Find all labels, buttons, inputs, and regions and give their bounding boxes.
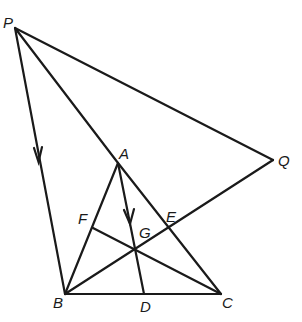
segment-AC <box>118 163 221 294</box>
label-A: A <box>118 145 129 162</box>
label-E: E <box>166 208 177 225</box>
label-F: F <box>78 210 88 227</box>
label-D: D <box>140 298 151 315</box>
segment-PA <box>15 28 118 163</box>
label-P: P <box>3 14 13 31</box>
segment-PB <box>15 28 65 294</box>
segment-PQ <box>15 28 273 160</box>
label-Q: Q <box>278 152 290 169</box>
segment-AB <box>65 163 118 294</box>
geometry-diagram: P Q A B C D E F G <box>0 0 302 322</box>
label-C: C <box>222 294 233 311</box>
segment-BQ <box>65 160 273 294</box>
label-B: B <box>53 294 63 311</box>
segment-CF <box>93 228 221 294</box>
label-G: G <box>139 224 151 241</box>
